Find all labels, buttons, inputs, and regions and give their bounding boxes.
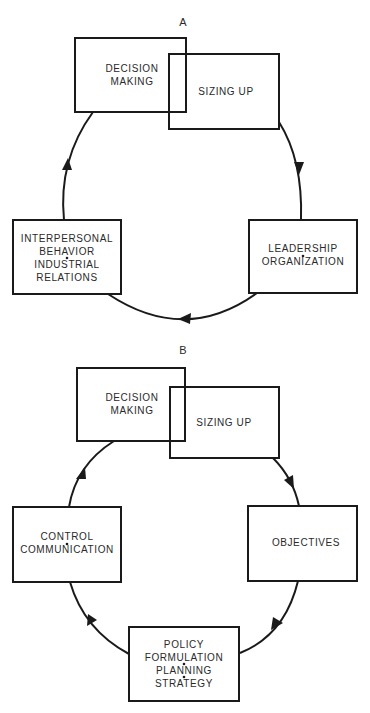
svg-text:INTERPERSONAL: INTERPERSONAL: [21, 233, 113, 244]
arc-policy-to-control: [70, 582, 129, 654]
svg-text:INDUSTRIAL: INDUSTRIAL: [34, 259, 99, 270]
svg-text:FORMULATION: FORMULATION: [145, 652, 224, 663]
arrow-down-icon: [294, 162, 304, 175]
svg-text:PLANNING: PLANNING: [156, 665, 212, 676]
svg-text:CONTROL: CONTROL: [40, 531, 93, 542]
svg-text:BEHAVIOR: BEHAVIOR: [39, 246, 95, 257]
svg-text:DECISION: DECISION: [105, 392, 158, 403]
svg-text:MAKING: MAKING: [110, 405, 153, 416]
svg-text:MAKING: MAKING: [110, 76, 153, 87]
svg-text:POLICY: POLICY: [164, 639, 204, 650]
arrow-up-right-icon: [76, 467, 86, 479]
arc-sizing-to-objectives: [273, 458, 299, 506]
svg-text:COMMUNICATION: COMMUNICATION: [20, 544, 114, 555]
arrow-up-icon: [62, 158, 72, 170]
diagram-a-label: A: [179, 16, 187, 28]
svg-text:ORGANIZATION: ORGANIZATION: [262, 256, 345, 267]
arc-objectives-to-policy: [240, 581, 298, 653]
svg-text:LEADERSHIP: LEADERSHIP: [268, 243, 337, 254]
svg-text:STRATEGY: STRATEGY: [155, 678, 213, 689]
arc-leadership-to-interpersonal: [108, 293, 257, 319]
sizing-up-b-text: SIZING UP: [196, 417, 251, 428]
arrow-left-icon: [178, 313, 191, 324]
management-cycle-diagrams: A DECISION MAKING SIZING UP LEADERSHIP O…: [0, 0, 370, 713]
diagram-b: B DECISION MAKING SIZING UP OBJECTIVES P…: [13, 344, 357, 701]
svg-text:OBJECTIVES: OBJECTIVES: [272, 537, 340, 548]
sizing-up-a-text: SIZING UP: [198, 86, 253, 97]
diagram-b-label: B: [179, 344, 186, 356]
diagram-a: A DECISION MAKING SIZING UP LEADERSHIP O…: [13, 16, 357, 324]
svg-text:DECISION: DECISION: [105, 63, 158, 74]
arc-control-to-decision: [69, 441, 114, 507]
svg-text:RELATIONS: RELATIONS: [36, 272, 97, 283]
